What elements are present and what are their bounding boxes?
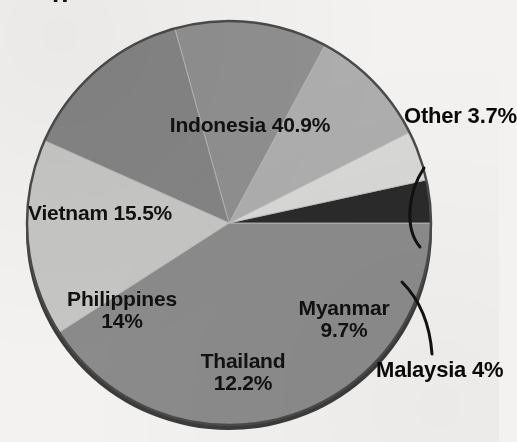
slice-label-malaysia: Malaysia 4% — [376, 358, 494, 381]
slice-label-other-line1: Other — [404, 103, 462, 128]
slice-label-other: Other 3.7% — [404, 104, 492, 127]
pie-slices-group — [27, 21, 431, 425]
slice-label-malaysia-line2: 4% — [472, 357, 503, 382]
slice-label-malaysia-line1: Malaysia — [376, 357, 466, 382]
slice-label-other-line2: 3.7% — [468, 103, 517, 128]
